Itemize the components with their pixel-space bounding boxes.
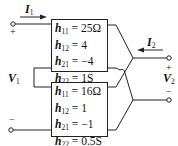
arrowhead-i1-icon bbox=[40, 15, 47, 20]
param-h12: h12 = 4 bbox=[55, 39, 107, 56]
label-i1: I1 bbox=[25, 2, 33, 17]
param-h22: h22 = 0.5S bbox=[55, 135, 107, 146]
label-i2: I2 bbox=[147, 35, 155, 50]
terminal-output-minus bbox=[167, 98, 171, 102]
label-v1: V1 bbox=[8, 71, 20, 86]
wire-top-lower-b bbox=[125, 73, 133, 100]
label-output-minus: − bbox=[166, 86, 172, 97]
param-h21: h21 = −4 bbox=[55, 55, 107, 72]
wire-series-link bbox=[34, 68, 51, 87]
terminal-output-plus bbox=[167, 56, 171, 60]
wire-bottom-lower bbox=[108, 100, 133, 130]
param-h12: h12 = 1 bbox=[55, 102, 107, 119]
arrowhead-i2-icon bbox=[137, 48, 144, 53]
param-h11: h11 = 25Ω bbox=[55, 22, 107, 39]
label-input-minus: − bbox=[9, 114, 15, 125]
network-bottom: h11 = 16Ω h12 = 1 h21 = −1 h22 = 0.5S bbox=[51, 82, 108, 137]
wire-top-upper bbox=[108, 25, 133, 58]
param-h21: h21 = −1 bbox=[55, 118, 107, 135]
param-h11: h11 = 16Ω bbox=[55, 85, 107, 102]
wire-bottom-upper bbox=[108, 58, 133, 87]
wire-top-lower-a bbox=[108, 68, 120, 70]
network-top: h11 = 25Ω h12 = 4 h21 = −4 h22 = 1S bbox=[51, 19, 108, 72]
label-v2: V2 bbox=[163, 71, 175, 86]
label-input-plus: + bbox=[10, 26, 16, 37]
terminal-input-minus bbox=[9, 128, 13, 132]
